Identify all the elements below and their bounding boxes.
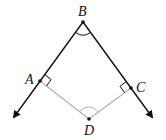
segment-cd xyxy=(89,88,131,119)
angle-arc-b xyxy=(76,33,91,36)
geometry-diagram: B A C D xyxy=(0,0,166,140)
point-d xyxy=(87,117,91,121)
point-b xyxy=(81,20,85,24)
ray-ba xyxy=(14,22,83,117)
segment-ad xyxy=(40,81,89,119)
label-b: B xyxy=(78,4,87,19)
label-c: C xyxy=(136,80,146,95)
point-c xyxy=(129,86,133,90)
diagram-svg: B A C D xyxy=(0,0,166,140)
point-a xyxy=(38,79,42,83)
right-angle-mark-c xyxy=(120,82,126,93)
label-d: D xyxy=(83,123,94,138)
ray-bc xyxy=(83,22,152,117)
label-a: A xyxy=(24,72,34,87)
angle-arc-d xyxy=(80,107,99,112)
right-angle-mark-a xyxy=(45,75,52,87)
